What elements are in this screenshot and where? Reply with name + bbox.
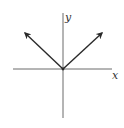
origin-point (62, 68, 65, 71)
right-branch-arrow (63, 33, 102, 69)
absolute-value-graph: y x (0, 0, 124, 128)
left-branch-arrow (25, 33, 63, 69)
y-axis-label: y (64, 11, 72, 24)
x-axis-label: x (112, 69, 119, 82)
